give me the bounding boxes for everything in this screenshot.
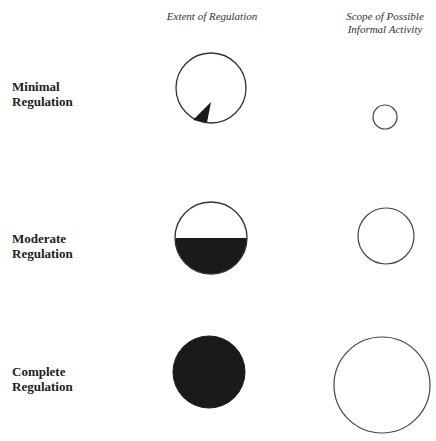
extent-circle-complete — [173, 336, 245, 408]
extent-circle-moderate — [175, 202, 247, 274]
scope-circle-small — [373, 105, 397, 129]
scope-circle-large — [334, 337, 430, 433]
regulation-diagram — [0, 0, 436, 441]
scope-circle-medium — [358, 208, 414, 264]
extent-circle-minimal — [176, 53, 246, 123]
